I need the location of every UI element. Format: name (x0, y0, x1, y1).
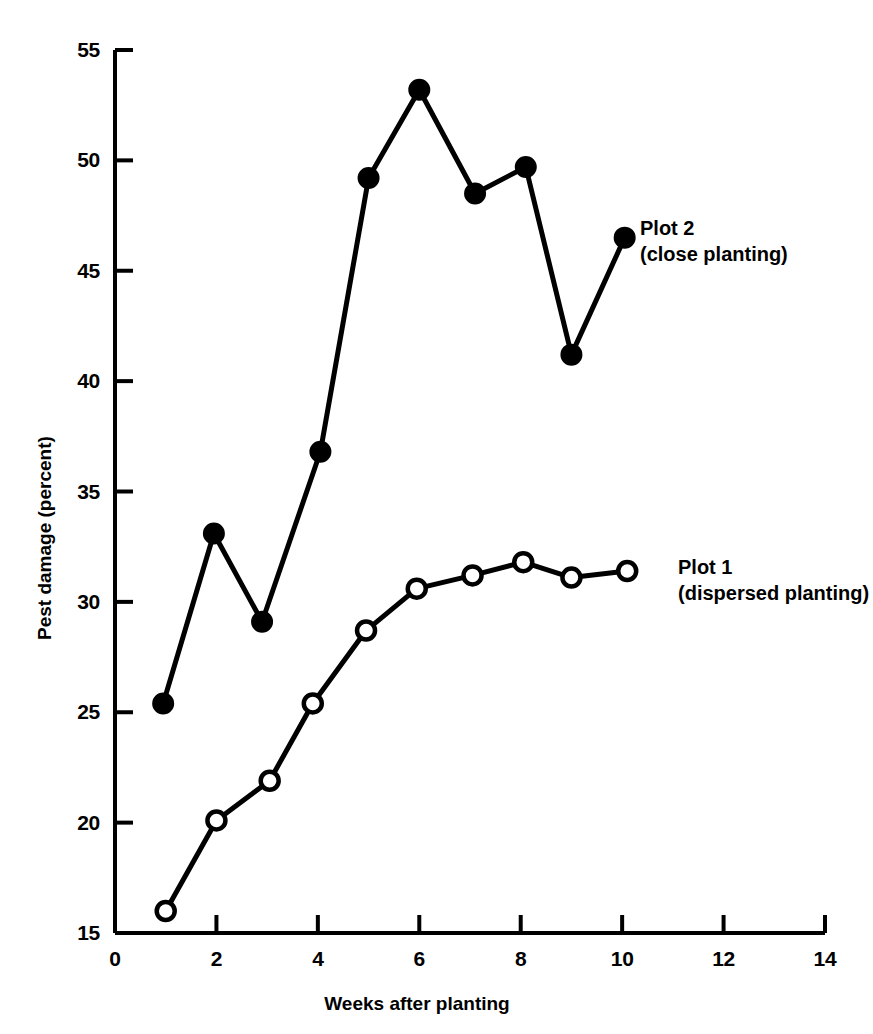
y-tick-label: 50 (55, 148, 100, 172)
y-tick-label: 55 (55, 38, 100, 62)
series-annotation-plot1-sublabel: (dispersed planting) (678, 581, 869, 607)
data-point-marker (409, 80, 429, 100)
x-tick-label: 12 (712, 947, 735, 971)
series-annotation-plot2-label: Plot 2 (640, 217, 694, 239)
data-point-marker (261, 772, 279, 790)
y-tick-label: 15 (55, 921, 100, 945)
x-axis-title: Weeks after planting (324, 993, 509, 1015)
x-tick-label: 2 (211, 947, 222, 971)
x-tick-label: 0 (109, 947, 120, 971)
series-annotation-plot1-label: Plot 1 (678, 556, 732, 578)
y-axis-ticks (115, 50, 133, 823)
data-point-marker (310, 442, 330, 462)
data-point-marker (514, 553, 532, 571)
y-tick-label: 30 (55, 590, 100, 614)
data-point-marker (357, 622, 375, 640)
x-tick-label: 14 (814, 947, 837, 971)
data-series-lines (163, 90, 627, 911)
data-point-marker (516, 157, 536, 177)
y-axis-title: Pest damage (percent) (34, 436, 56, 640)
x-tick-label: 8 (515, 947, 526, 971)
series-annotation-plot2: Plot 2 (close planting) (640, 216, 788, 267)
data-point-marker (207, 811, 225, 829)
series-annotation-plot1: Plot 1 (dispersed planting) (678, 555, 869, 606)
x-axis-ticks (216, 915, 825, 933)
data-point-marker (252, 612, 272, 632)
y-tick-label: 25 (55, 700, 100, 724)
data-point-marker (304, 694, 322, 712)
data-point-marker (561, 345, 581, 365)
chart-figure: 152025303540455055 02468101214 Pest dama… (0, 0, 873, 1034)
y-tick-label: 40 (55, 369, 100, 393)
y-tick-label: 35 (55, 480, 100, 504)
y-tick-label: 20 (55, 811, 100, 835)
x-tick-label: 6 (414, 947, 425, 971)
data-point-marker (157, 902, 175, 920)
data-point-marker (615, 228, 635, 248)
x-tick-label: 4 (312, 947, 323, 971)
data-point-marker (618, 562, 636, 580)
data-point-marker (562, 569, 580, 587)
series-annotation-plot2-sublabel: (close planting) (640, 242, 788, 268)
series-line-2 (163, 90, 625, 704)
chart-canvas (0, 0, 873, 1034)
data-point-marker (408, 580, 426, 598)
y-tick-label: 45 (55, 259, 100, 283)
data-point-marker (204, 523, 224, 543)
series-line-1 (166, 562, 628, 911)
data-series-markers (153, 80, 636, 920)
data-point-marker (153, 693, 173, 713)
data-point-marker (464, 566, 482, 584)
x-tick-label: 10 (611, 947, 634, 971)
data-point-marker (359, 168, 379, 188)
data-point-marker (465, 183, 485, 203)
